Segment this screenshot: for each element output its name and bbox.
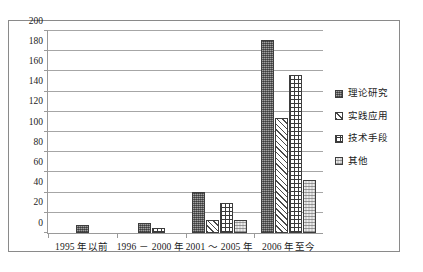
- y-tick-label: 180: [29, 37, 43, 47]
- bar-group: [254, 31, 323, 233]
- x-axis-label: 1996 － 2000 年: [116, 239, 185, 253]
- bar[interactable]: [138, 223, 151, 233]
- y-tick-label: 40: [34, 178, 44, 188]
- x-axis-label: 2001 ～ 2005 年: [185, 239, 254, 253]
- bar[interactable]: [206, 220, 219, 233]
- chart-figure: 020406080100120140160180200 1995 年以前1996…: [8, 20, 400, 252]
- x-tick-mark: [48, 233, 49, 238]
- x-tick-mark: [254, 233, 255, 238]
- x-tick-mark: [117, 233, 118, 238]
- bar-group: [117, 31, 186, 233]
- x-axis-labels: 1995 年以前1996 － 2000 年2001 ～ 2005 年2006 年…: [47, 239, 323, 253]
- legend-label: 理论研究: [348, 89, 388, 99]
- y-tick-label: 0: [38, 219, 43, 229]
- bar[interactable]: [152, 228, 165, 233]
- chart-legend: 理论研究实践应用技术手段其他: [335, 89, 388, 166]
- bar[interactable]: [261, 40, 274, 233]
- x-axis-label: 1995 年以前: [47, 239, 116, 253]
- legend-item[interactable]: 理论研究: [335, 89, 388, 99]
- legend-item[interactable]: 其他: [335, 157, 388, 167]
- bar-groups: [48, 31, 323, 233]
- bar-group: [186, 31, 255, 233]
- y-tick-label: 120: [29, 98, 43, 108]
- bar-group: [48, 31, 117, 233]
- legend-item[interactable]: 技术手段: [335, 134, 388, 144]
- dark-speckle-swatch: [335, 90, 343, 98]
- bar[interactable]: [303, 180, 316, 233]
- x-axis-label: 2006 年至今: [254, 239, 323, 253]
- diagonal-hatch-swatch: [335, 112, 343, 120]
- y-tick-label: 100: [29, 118, 43, 128]
- legend-label: 实践应用: [348, 112, 388, 122]
- cross-grid-swatch: [335, 135, 343, 143]
- bar[interactable]: [275, 118, 288, 233]
- y-tick-label: 80: [34, 138, 44, 148]
- y-tick-label: 20: [34, 199, 44, 209]
- light-dotted-swatch: [335, 157, 343, 165]
- y-tick-label: 200: [29, 17, 43, 27]
- bar[interactable]: [220, 203, 233, 233]
- x-tick-mark: [186, 233, 187, 238]
- bar[interactable]: [289, 75, 302, 233]
- legend-label: 其他: [348, 157, 368, 167]
- y-tick-label: 160: [29, 57, 43, 67]
- legend-item[interactable]: 实践应用: [335, 112, 388, 122]
- bar[interactable]: [76, 225, 89, 233]
- bar[interactable]: [234, 220, 247, 233]
- y-tick-label: 60: [34, 158, 44, 168]
- plot-area: 020406080100120140160180200: [47, 31, 323, 234]
- legend-label: 技术手段: [348, 134, 388, 144]
- bar[interactable]: [192, 192, 205, 233]
- y-tick-label: 140: [29, 77, 43, 87]
